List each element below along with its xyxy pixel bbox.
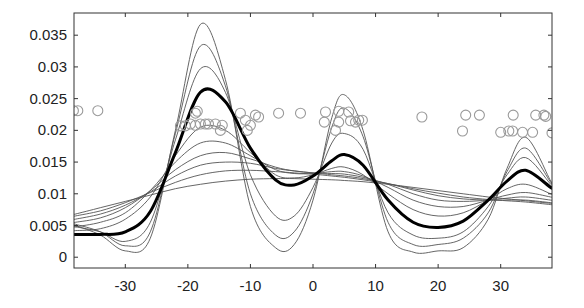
y-tick-label: 0.03: [38, 58, 67, 75]
x-tick-label: 10: [367, 277, 384, 294]
x-tick-label: 30: [492, 277, 509, 294]
y-tick-label: 0.02: [38, 121, 67, 138]
x-tick-label: -20: [177, 277, 199, 294]
x-tick-label: 0: [309, 277, 317, 294]
x-tick-label: -10: [240, 277, 262, 294]
y-tick-label: 0.015: [29, 153, 67, 170]
x-tick-label: -30: [114, 277, 136, 294]
y-tick-label: 0.005: [29, 217, 67, 234]
density-chart: -30-20-100102030 00.0050.010.0150.020.02…: [0, 0, 584, 308]
y-tick-label: 0.035: [29, 26, 67, 43]
y-tick-label: 0.025: [29, 90, 67, 107]
x-tick-label: 20: [430, 277, 447, 294]
y-tick-label: 0.01: [38, 185, 67, 202]
y-tick-label: 0: [59, 248, 67, 265]
